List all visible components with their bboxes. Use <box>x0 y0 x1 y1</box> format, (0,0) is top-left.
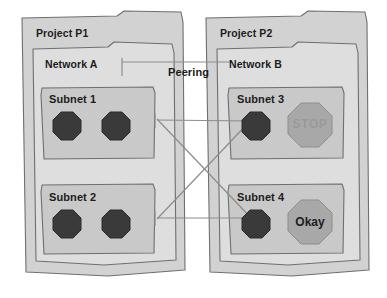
subnet-1-label: Subnet 1 <box>49 93 96 105</box>
project-p1-label: Project P1 <box>36 27 88 39</box>
network-b-label: Network B <box>229 58 282 70</box>
instance-okay-label: Okay <box>288 215 332 229</box>
instance-stop-label: STOP <box>288 117 332 131</box>
subnet-4-label: Subnet 4 <box>237 191 284 203</box>
subnet-3-label: Subnet 3 <box>237 93 284 105</box>
peering-label: Peering <box>168 66 209 78</box>
instance-p2-s4-vm1[interactable] <box>242 210 270 238</box>
instance-p2-s3-vm1[interactable] <box>242 112 270 140</box>
instance-p1-s1-vm1[interactable] <box>53 112 81 140</box>
subnet-2-label: Subnet 2 <box>49 191 96 203</box>
instance-p1-s2-vm1[interactable] <box>53 210 81 238</box>
instance-p1-s2-vm2[interactable] <box>102 210 130 238</box>
project-p2-label: Project P2 <box>220 27 272 39</box>
diagram-canvas: Project P1 Network A Subnet 1 Subnet 2 P… <box>0 0 387 298</box>
instance-p1-s1-vm2[interactable] <box>102 112 130 140</box>
network-a-label: Network A <box>45 58 97 70</box>
diagram-shapes <box>0 0 387 298</box>
